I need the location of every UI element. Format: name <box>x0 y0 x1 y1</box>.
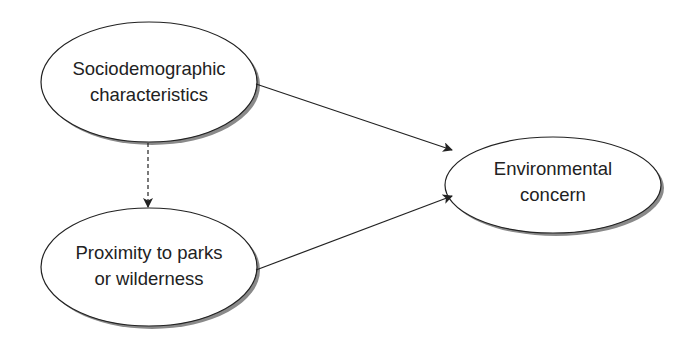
label-environmental: Environmental concern <box>494 156 612 208</box>
label-line: characteristics <box>72 82 225 108</box>
label-line: Sociodemographic <box>72 56 225 82</box>
edge-sociodemographic-to-environmental <box>256 84 452 150</box>
label-line: Proximity to parks <box>75 240 222 266</box>
label-line: or wilderness <box>75 266 222 292</box>
edge-proximity-to-environmental <box>256 196 452 270</box>
label-line: concern <box>494 182 612 208</box>
label-line: Environmental <box>494 156 612 182</box>
label-proximity: Proximity to parks or wilderness <box>75 240 222 292</box>
label-sociodemographic: Sociodemographic characteristics <box>72 56 225 108</box>
